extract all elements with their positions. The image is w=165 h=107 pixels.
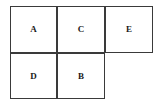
grid-cell-d[interactable]: D bbox=[10, 53, 57, 99]
grid-cell-c[interactable]: C bbox=[57, 6, 105, 53]
grid-cell-label-d: D bbox=[30, 72, 37, 81]
grid-cell-label-c: C bbox=[78, 25, 85, 34]
grid-cell-e[interactable]: E bbox=[105, 6, 153, 53]
grid-cell-label-b: B bbox=[78, 72, 84, 81]
grid-cell-a[interactable]: A bbox=[10, 6, 57, 53]
grid-cell-label-e: E bbox=[126, 25, 132, 34]
grid-cell-label-a: A bbox=[30, 25, 37, 34]
figure-canvas: A C E D B bbox=[0, 0, 165, 107]
grid-cell-b[interactable]: B bbox=[57, 53, 105, 99]
